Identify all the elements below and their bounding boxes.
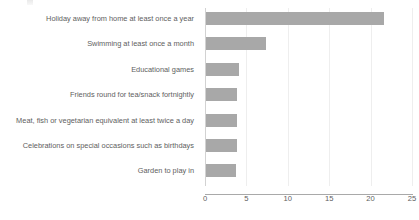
gridline [329, 8, 330, 186]
bar [206, 139, 237, 152]
bar [206, 88, 237, 101]
bar [206, 114, 237, 127]
gridline [288, 8, 289, 186]
category-label: Holiday away from home at least once a y… [0, 14, 194, 23]
gridline [246, 8, 247, 186]
clipped-text-artifact [27, 0, 33, 5]
x-tick-label: 10 [284, 194, 292, 204]
x-tick-label: 15 [325, 194, 333, 204]
bar-chart: Holiday away from home at least once a y… [0, 0, 419, 220]
category-label: Friends round for tea/snack fortnightly [0, 90, 194, 99]
x-tick-label: 20 [366, 194, 374, 204]
x-axis-tick-labels: 0510152025 [0, 194, 419, 208]
category-label: Garden to play in [0, 166, 194, 175]
bar [206, 37, 266, 50]
category-label: Swimming at least once a month [0, 39, 194, 48]
plot-area [205, 8, 412, 186]
plot-wrapper: Holiday away from home at least once a y… [0, 8, 419, 192]
x-tick-label: 0 [203, 194, 207, 204]
gridline [371, 8, 372, 186]
x-tick-label: 25 [408, 194, 416, 204]
bar [206, 63, 239, 76]
gridline [412, 8, 413, 186]
category-label: Meat, fish or vegetarian equivalent at l… [0, 116, 194, 125]
bar [206, 164, 236, 177]
category-label: Celebrations on special occasions such a… [0, 141, 194, 150]
category-label-column: Holiday away from home at least once a y… [0, 8, 200, 186]
x-tick-label: 5 [244, 194, 248, 204]
bar [206, 12, 384, 25]
category-label: Educational games [0, 65, 194, 74]
